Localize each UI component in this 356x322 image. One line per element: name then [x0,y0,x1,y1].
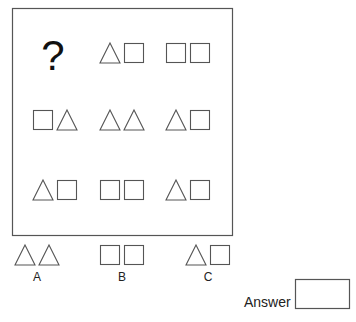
grid-cell-r3-c3 [166,180,210,200]
grid-cell-r1-c3 [167,44,210,63]
grid-cell-r2-c2 [100,110,144,130]
option-label: C [204,270,213,284]
option-a[interactable]: A [15,245,59,284]
triangle-icon [100,43,120,63]
grid-cell-r2-c1 [34,110,78,130]
triangle-icon [100,110,120,130]
question-mark-icon: ? [41,32,64,79]
answer-options: ABC [15,245,230,284]
grid-cell-r2-c3 [166,110,210,130]
square-icon [58,181,77,200]
square-icon [125,44,144,63]
option-b-shapes [101,246,144,265]
option-b[interactable]: B [101,246,144,285]
answer-label: Answer [244,294,291,310]
square-icon [191,111,210,130]
option-c-shapes [186,245,230,265]
triangle-icon [166,110,186,130]
grid-cell-r1-c2 [100,43,144,63]
answer-box[interactable] [296,280,350,309]
puzzle-grid: ? [33,32,210,200]
triangle-icon [57,110,77,130]
grid-cell-r3-c2 [101,181,144,200]
option-label: A [33,270,41,284]
square-icon [34,111,53,130]
square-icon [101,181,120,200]
triangle-icon [39,245,59,265]
square-icon [191,181,210,200]
square-icon [125,181,144,200]
square-icon [211,246,230,265]
triangle-icon [186,245,206,265]
triangle-icon [33,180,53,200]
square-icon [101,246,120,265]
square-icon [191,44,210,63]
triangle-icon [124,110,144,130]
square-icon [125,246,144,265]
grid-cell-r3-c1 [33,180,77,200]
option-a-shapes [15,245,59,265]
square-icon [167,44,186,63]
option-c[interactable]: C [186,245,230,284]
triangle-icon [15,245,35,265]
triangle-icon [166,180,186,200]
puzzle-canvas: ? ABC Answer [0,0,356,322]
option-label: B [118,270,126,284]
